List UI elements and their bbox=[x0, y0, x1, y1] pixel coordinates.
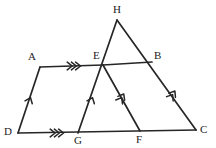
vertex-label-f: F bbox=[136, 134, 142, 145]
vertex-label-e: E bbox=[93, 50, 100, 61]
vertex-label-h: H bbox=[113, 4, 121, 15]
segment-h-g bbox=[78, 20, 117, 133]
segment-e-b bbox=[103, 62, 152, 65]
segment-d-a bbox=[18, 67, 40, 133]
vertex-label-a: A bbox=[28, 51, 36, 62]
vertex-label-b: B bbox=[154, 50, 161, 61]
chevron-icon-e-f bbox=[116, 92, 127, 104]
segment-h-c bbox=[117, 20, 196, 130]
segment-d-c bbox=[18, 130, 196, 133]
vertex-label-c: C bbox=[200, 124, 207, 135]
vertex-label-g: G bbox=[74, 135, 82, 146]
vertex-label-d: D bbox=[4, 126, 12, 137]
geometry-figure: ABCDEFGH bbox=[0, 0, 216, 148]
edges-group bbox=[18, 20, 196, 133]
geometry-canvas bbox=[0, 0, 216, 148]
